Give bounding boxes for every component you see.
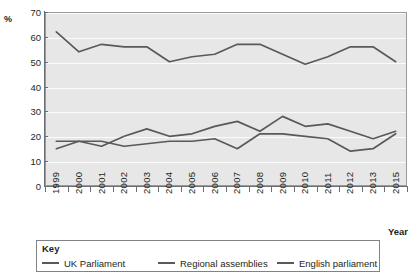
series-line-uk-parliament bbox=[56, 32, 395, 64]
legend-line-swatch-icon bbox=[42, 262, 59, 264]
legend-item-label: UK Parliament bbox=[64, 258, 125, 269]
series-paths-group bbox=[56, 32, 395, 151]
legend-item-1[interactable]: Regional assemblies bbox=[158, 256, 268, 270]
line-chart: % 010203040506070 1999200020012002200320… bbox=[0, 0, 414, 278]
series-line-english-parliament bbox=[56, 134, 395, 151]
legend-title: Key bbox=[42, 243, 59, 254]
legend-items-group: UK ParliamentRegional assembliesEnglish … bbox=[42, 256, 376, 270]
legend-item-0[interactable]: UK Parliament bbox=[42, 256, 125, 270]
legend-line-swatch-icon bbox=[158, 262, 175, 264]
legend-line-swatch-icon bbox=[277, 262, 294, 264]
legend-item-2[interactable]: English parliament bbox=[277, 256, 377, 270]
series-layer bbox=[0, 0, 414, 278]
legend-item-label: Regional assemblies bbox=[180, 258, 268, 269]
legend-item-label: English parliament bbox=[299, 258, 377, 269]
legend-box: Key UK ParliamentRegional assembliesEngl… bbox=[36, 240, 380, 272]
